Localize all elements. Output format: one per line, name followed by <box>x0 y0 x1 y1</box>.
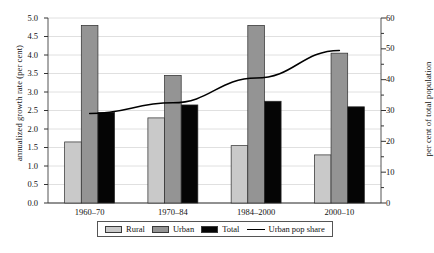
bar-rural <box>231 146 248 203</box>
bar-total <box>348 107 365 203</box>
bar-rural <box>148 118 165 203</box>
legend-item-label: Total <box>222 225 239 234</box>
legend-item[interactable]: Total <box>201 225 239 234</box>
chart-legend: RuralUrbanTotalUrban pop share <box>97 221 333 237</box>
x-tick-label: 2000–10 <box>298 206 381 220</box>
legend-swatch-total <box>201 226 218 233</box>
legend-item-label: Urban pop share <box>269 225 325 234</box>
bar-urban <box>331 53 348 203</box>
x-axis-tick-labels: 1960–701970–841984–20002000–10 <box>48 206 381 220</box>
chart-figure: annualized growth rate (per cent) per ce… <box>0 0 434 253</box>
bar-urban <box>165 75 182 203</box>
bar-rural <box>314 155 331 203</box>
x-tick-label: 1984–2000 <box>215 206 298 220</box>
legend-item-label: Urban <box>173 225 194 234</box>
line-urban-pop-share <box>90 50 340 113</box>
legend-line-marker-icon <box>247 229 265 230</box>
legend-item[interactable]: Rural <box>105 225 145 234</box>
x-tick-label: 1970–84 <box>131 206 214 220</box>
bar-total <box>264 101 281 203</box>
x-tick-label: 1960–70 <box>48 206 131 220</box>
legend-swatch-rural <box>105 226 122 233</box>
bar-total <box>98 112 115 203</box>
legend-item[interactable]: Urban <box>152 225 194 234</box>
legend-swatch-urban <box>152 226 169 233</box>
bar-urban <box>248 25 265 203</box>
bar-rural <box>65 142 82 203</box>
legend-item-label: Rural <box>126 225 145 234</box>
bar-total <box>181 105 198 203</box>
legend-item[interactable]: Urban pop share <box>247 225 325 234</box>
